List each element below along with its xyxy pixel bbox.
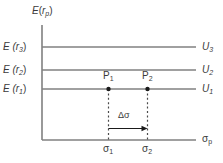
curve-label-u3-sub: 3: [209, 46, 213, 53]
point-marker-p2: [145, 87, 149, 91]
left-label-main-2: E (r: [3, 64, 19, 75]
sigma-symbol: σ: [124, 110, 130, 120]
x-tick-label-sigma2: σ2: [142, 143, 152, 155]
point-label-p1: P1: [103, 70, 114, 82]
x-axis-label-sub: p: [208, 138, 212, 145]
left-axis-label-e-r1: E (r1): [3, 83, 26, 95]
y-axis-label-main: E: [32, 5, 39, 16]
delta-sigma-label: Δσ: [118, 110, 130, 120]
curve-label-u1-sub: 1: [209, 88, 213, 95]
point-label-p1-main: P: [103, 70, 110, 81]
delta-sigma-arrow-head: [142, 126, 148, 132]
curve-label-u3: U3: [202, 41, 213, 53]
left-label-main-3: E (r: [3, 41, 19, 52]
curve-label-u2-sub: 2: [209, 69, 213, 76]
curve-label-u1: U1: [202, 83, 213, 95]
x-tick-sigma2-sub: 2: [148, 148, 152, 155]
point-label-p2: P2: [142, 70, 153, 82]
x-tick-sigma1-sub: 1: [109, 148, 113, 155]
left-label-main-1: E (r: [3, 83, 19, 94]
left-label-close-3: ): [23, 41, 26, 52]
point-label-p2-sub: 2: [149, 75, 153, 82]
left-axis-label-e-r2: E (r2): [3, 64, 26, 76]
left-axis-label-e-r3: E (r3): [3, 41, 26, 53]
point-marker-p1: [106, 87, 110, 91]
x-axis-label: σp: [202, 133, 212, 145]
utility-indifference-diagram: E(rp) E (r3) E (r2) E (r1) U3 U2 U1 P1 P…: [0, 0, 223, 163]
left-label-close-1: ): [23, 83, 26, 94]
x-tick-label-sigma1: σ1: [103, 143, 113, 155]
y-axis-label: E(rp): [32, 5, 53, 17]
point-label-p1-sub: 1: [110, 75, 114, 82]
curve-label-u2: U2: [202, 64, 213, 76]
y-axis-label-paren-close: ): [49, 5, 52, 16]
left-label-close-2: ): [23, 64, 26, 75]
point-label-p2-main: P: [142, 70, 149, 81]
